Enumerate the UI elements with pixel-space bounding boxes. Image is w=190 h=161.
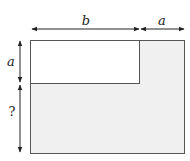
rectangle-diagram: b a a ? xyxy=(0,0,190,161)
label-a-top: a xyxy=(158,13,166,28)
label-b: b xyxy=(82,13,90,28)
label-a-left: a xyxy=(7,54,15,69)
inner-rectangle xyxy=(31,41,140,84)
label-unknown: ? xyxy=(9,104,16,119)
